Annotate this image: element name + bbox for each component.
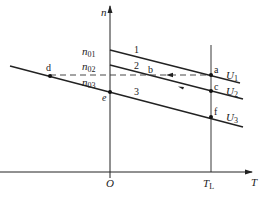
point-c-label: c — [214, 81, 219, 92]
point-a — [209, 73, 213, 77]
origin-label: O — [106, 177, 114, 189]
load-torque-label: TL — [203, 177, 214, 191]
curve-2-number: 2 — [134, 60, 139, 71]
arrow-left-icon — [166, 73, 173, 77]
voltage-u1-label: U1 — [226, 69, 238, 83]
point-e — [108, 90, 112, 94]
point-d-label: d — [46, 62, 51, 73]
y-axis-label: n — [101, 6, 107, 18]
n01-label: n01 — [82, 45, 96, 59]
arrow-curve-icon — [178, 87, 184, 90]
x-axis-label: T — [251, 176, 258, 188]
voltage-u3-label: U3 — [226, 111, 238, 125]
curve-2 — [110, 65, 243, 99]
n02-label: n02 — [82, 60, 96, 74]
voltage-u2-label: U2 — [226, 85, 238, 99]
curve-1-number: 1 — [134, 44, 139, 55]
point-a-label: a — [214, 64, 219, 75]
speed-torque-diagram: n T O TL n01 n02 n03 1 2 3 U1 U2 U3 a b … — [0, 0, 271, 197]
curve-3-number: 3 — [134, 86, 139, 97]
n03-label: n03 — [82, 76, 96, 90]
point-f-label: f — [214, 106, 218, 117]
point-c — [209, 89, 213, 93]
point-e-label: e — [102, 92, 107, 103]
point-b-label: b — [148, 64, 153, 75]
point-d — [48, 74, 52, 78]
curve-1 — [110, 50, 240, 83]
point-f — [209, 115, 213, 119]
